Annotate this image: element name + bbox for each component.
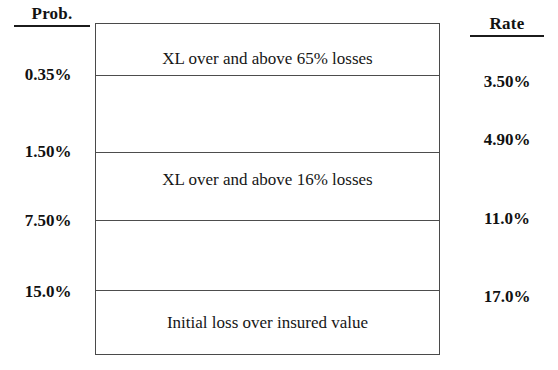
band-caption-initial-loss: Initial loss over insured value	[96, 313, 439, 333]
probability-value-1: 1.50%	[8, 142, 88, 162]
rate-column-header: Rate	[470, 14, 544, 37]
band-caption-xl-16: XL over and above 16% losses	[96, 170, 439, 190]
probability-column-header-label: Prob.	[32, 4, 73, 23]
rate-header-underline	[470, 35, 544, 37]
layer-divider-2	[96, 152, 439, 153]
layer-divider-1	[96, 75, 439, 76]
probability-value-3: 15.0%	[8, 282, 88, 302]
rate-column-header-label: Rate	[490, 14, 525, 33]
band-caption-xl-65: XL over and above 65% losses	[96, 49, 439, 69]
rate-value-1: 4.90%	[466, 130, 548, 150]
rate-value-2: 11.0%	[466, 209, 548, 229]
figure-canvas: Prob. Rate XL over and above 65% losses …	[0, 0, 558, 370]
probability-value-0: 0.35%	[8, 65, 88, 85]
probability-header-underline	[14, 25, 90, 27]
loss-layer-box: XL over and above 65% losses XL over and…	[95, 23, 440, 355]
rate-value-3: 17.0%	[466, 287, 548, 307]
layer-divider-4	[96, 290, 439, 291]
layer-divider-3	[96, 220, 439, 221]
probability-value-2: 7.50%	[8, 211, 88, 231]
rate-value-0: 3.50%	[466, 72, 548, 92]
probability-column-header: Prob.	[14, 4, 90, 27]
